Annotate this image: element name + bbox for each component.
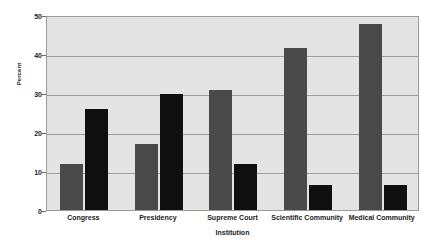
y-axis-tick-label: 10 <box>24 169 42 176</box>
bar-group <box>345 17 420 210</box>
bar-group <box>196 17 271 210</box>
x-axis-tick-label: Medical Community <box>344 213 419 223</box>
y-axis-tick-label: 20 <box>24 130 42 137</box>
bar <box>209 90 232 211</box>
bar <box>359 24 382 210</box>
y-axis-tick-labels: 01020304050 <box>24 16 42 211</box>
bar <box>160 94 183 210</box>
bar <box>135 144 158 210</box>
x-axis-tick-label: Congress <box>46 213 121 223</box>
y-axis-tick-label: 0 <box>24 208 42 215</box>
x-axis-tick-labels: CongressPresidencySupreme CourtScientifi… <box>46 213 419 227</box>
bar <box>384 185 407 210</box>
bar <box>309 185 332 210</box>
x-axis-tick-label: Presidency <box>121 213 196 223</box>
bar-group <box>47 17 122 210</box>
y-axis-tick-label: 50 <box>24 13 42 20</box>
bar-group <box>122 17 197 210</box>
x-axis-title: Institution <box>46 228 419 237</box>
x-axis-tick-label: Scientific Community <box>270 213 345 223</box>
y-axis-tick-label: 40 <box>24 52 42 59</box>
bar-chart: Percent 01020304050 CongressPresidencySu… <box>0 0 434 252</box>
bar-group <box>271 17 346 210</box>
x-axis-tick-label: Supreme Court <box>195 213 270 223</box>
bar <box>284 48 307 210</box>
bar <box>85 109 108 210</box>
plot-area <box>46 16 419 211</box>
bar <box>234 164 257 210</box>
y-axis-tick-label: 30 <box>24 91 42 98</box>
bar <box>60 164 83 210</box>
